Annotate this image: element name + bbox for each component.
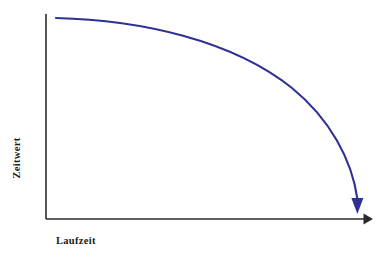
y-axis-label: Zeitwert bbox=[12, 138, 23, 179]
chart-container: Zeitwert Laufzeit bbox=[0, 0, 389, 263]
chart-canvas bbox=[0, 0, 389, 263]
x-axis-label: Laufzeit bbox=[56, 236, 96, 247]
